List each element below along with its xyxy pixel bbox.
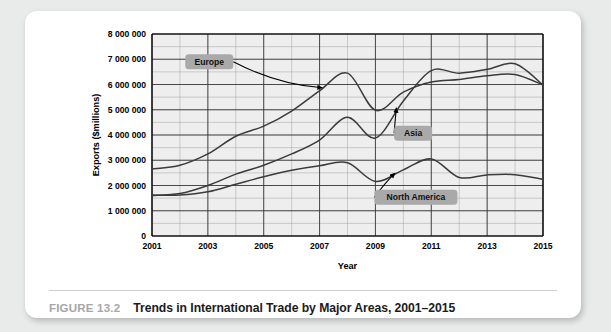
x-tick-label: 2011 [422, 241, 441, 251]
y-tick-label: 6 000 000 [108, 80, 146, 90]
figure-number: FIGURE 13.2 [49, 302, 120, 314]
chart-container: 01 000 0002 000 0003 000 0004 000 0005 0… [25, 11, 581, 281]
x-tick-label: 2013 [478, 241, 497, 251]
figure-card: 01 000 0002 000 0003 000 0004 000 0005 0… [25, 11, 581, 318]
callout-label-text: Europe [194, 57, 224, 67]
y-axis-title-text: Exports ($millions) [91, 94, 101, 177]
x-tick-label: 2005 [254, 241, 273, 251]
callout-label-text: North America [386, 192, 445, 202]
x-tick-label: 2015 [533, 241, 552, 251]
x-axis-title: Year [338, 261, 358, 271]
y-tick-label: 8 000 000 [108, 29, 146, 39]
y-tick-label: 1 000 000 [108, 206, 146, 216]
y-tick-label: 4 000 000 [108, 130, 146, 140]
x-tick-label: 2009 [366, 241, 385, 251]
y-tick-label: 0 [141, 231, 146, 241]
y-axis-title: Exports ($millions) [91, 94, 101, 177]
y-tick-label: 2 000 000 [108, 181, 146, 191]
y-tick-label: 7 000 000 [108, 54, 146, 64]
x-tick-label: 2007 [310, 241, 329, 251]
figure-caption: FIGURE 13.2 Trends in International Trad… [49, 299, 563, 317]
x-axis-tick-labels: 20012003200520072009201120132015 [142, 241, 552, 251]
x-axis-title-text: Year [338, 261, 358, 271]
y-axis-tick-labels: 01 000 0002 000 0003 000 0004 000 0005 0… [108, 29, 146, 241]
y-tick-label: 3 000 000 [108, 155, 146, 165]
callout-label-text: Asia [404, 128, 422, 138]
x-tick-label: 2003 [198, 241, 217, 251]
y-tick-label: 5 000 000 [108, 105, 146, 115]
trends-line-chart: 01 000 0002 000 0003 000 0004 000 0005 0… [25, 11, 581, 281]
caption-divider [49, 290, 557, 291]
figure-title: Trends in International Trade by Major A… [133, 301, 455, 315]
x-tick-label: 2001 [142, 241, 161, 251]
